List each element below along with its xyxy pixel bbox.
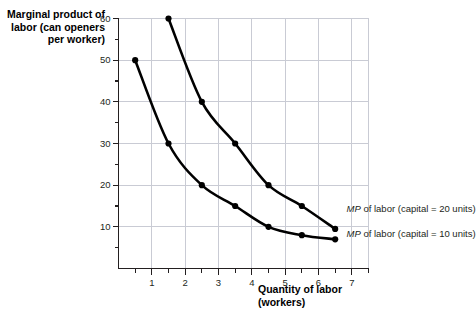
data-point-marker bbox=[199, 182, 205, 188]
x-tick-label: 4 bbox=[244, 277, 260, 288]
data-point-marker bbox=[165, 15, 171, 21]
data-point-marker bbox=[299, 203, 305, 209]
y-tick-label: 20 bbox=[91, 179, 111, 190]
gridlines bbox=[119, 19, 369, 269]
data-point-marker bbox=[332, 236, 338, 242]
axis-ticks bbox=[113, 19, 369, 275]
data-point-marker bbox=[265, 182, 271, 188]
series-label-text: of labor (capital = 20 units) bbox=[361, 203, 476, 214]
data-point-marker bbox=[199, 99, 205, 105]
data-point-marker bbox=[265, 224, 271, 230]
data-point-marker bbox=[232, 140, 238, 146]
x-tick-label: 7 bbox=[344, 277, 360, 288]
x-tick-label: 1 bbox=[144, 277, 160, 288]
x-tick-label: 5 bbox=[277, 277, 293, 288]
data-point-marker bbox=[299, 232, 305, 238]
y-tick-label: 30 bbox=[91, 138, 111, 149]
series-label-text: of labor (capital = 10 units) bbox=[361, 228, 476, 239]
mp-symbol: MP bbox=[347, 228, 361, 239]
data-point-marker bbox=[165, 140, 171, 146]
y-tick-label: 40 bbox=[91, 96, 111, 107]
x-tick-label: 6 bbox=[311, 277, 327, 288]
y-tick-label: 50 bbox=[91, 54, 111, 65]
mp-symbol: MP bbox=[347, 203, 361, 214]
data-point-marker bbox=[332, 226, 338, 232]
data-point-marker bbox=[132, 57, 138, 63]
y-tick-label: 60 bbox=[91, 13, 111, 24]
data-point-marker bbox=[232, 203, 238, 209]
curve-line bbox=[135, 60, 335, 239]
x-tick-label: 2 bbox=[177, 277, 193, 288]
series-label-capital-20: MP of labor (capital = 20 units) bbox=[347, 203, 476, 214]
y-tick-label: 10 bbox=[91, 221, 111, 232]
series-label-capital-10: MP of labor (capital = 10 units) bbox=[347, 228, 476, 239]
x-tick-label: 3 bbox=[211, 277, 227, 288]
